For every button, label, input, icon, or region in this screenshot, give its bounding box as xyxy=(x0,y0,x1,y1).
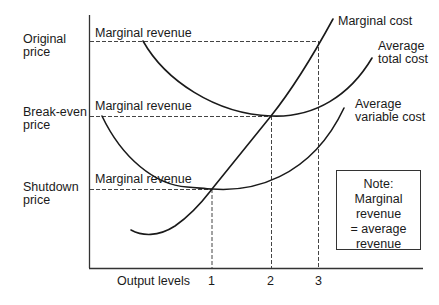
note-line-5: revenue xyxy=(337,237,420,252)
shutdown-price-label-line2: price xyxy=(23,194,79,207)
original-price-label-line2: price xyxy=(23,46,66,59)
original-price-label: Original price xyxy=(23,33,66,59)
average-total-cost-label-line2: total cost xyxy=(378,53,428,66)
x-tick-1: 1 xyxy=(208,275,215,288)
note-line-3: revenue xyxy=(337,207,420,222)
note-line-4: = average xyxy=(337,222,420,237)
x-axis-label: Output levels xyxy=(117,275,190,288)
note-box: Note: Marginal revenue = average revenue xyxy=(336,170,421,250)
marginal-cost-label: Marginal cost xyxy=(338,15,412,28)
break-even-price-label: Break-even price xyxy=(23,106,87,132)
marginal-revenue-label-original: Marginal revenue xyxy=(95,27,192,40)
marginal-cost-curve xyxy=(131,19,333,234)
x-tick-2: 2 xyxy=(267,275,274,288)
average-variable-cost-label-line2: variable cost xyxy=(355,111,425,124)
shutdown-price-label: Shutdown price xyxy=(23,181,79,207)
break-even-price-label-line2: price xyxy=(23,119,87,132)
average-total-cost-label: Average total cost xyxy=(378,40,428,66)
marginal-revenue-label-break-even: Marginal revenue xyxy=(95,100,192,113)
note-line-2: Marginal xyxy=(337,192,420,207)
average-variable-cost-label: Average variable cost xyxy=(355,98,425,124)
x-tick-3: 3 xyxy=(315,275,322,288)
note-line-1: Note: xyxy=(337,177,420,192)
marginal-revenue-label-shutdown: Marginal revenue xyxy=(95,173,192,186)
